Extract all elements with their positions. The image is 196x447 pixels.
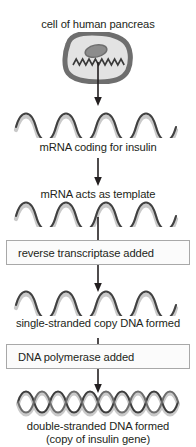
arrow-copy-dna-to-polymerase — [91, 334, 105, 344]
insulin-gene-cloning-diagram: cell of human pancreas — [0, 0, 196, 447]
label-mrna-coding: mRNA coding for insulin — [0, 140, 196, 154]
arrow-cell-to-mrna — [91, 62, 105, 106]
label-single-stranded-copy-dna: single-stranded copy DNA formed — [0, 316, 196, 330]
process-box-reverse-transcriptase-label: reverse transcriptase added — [7, 247, 154, 259]
process-box-reverse-transcriptase[interactable]: reverse transcriptase added — [6, 240, 190, 265]
single-strand-helix-copy-dna — [0, 288, 196, 316]
label-double-stranded-dna-sublabel: (copy of insulin gene) — [0, 432, 196, 446]
process-box-dna-polymerase[interactable]: DNA polymerase added — [6, 344, 190, 369]
diagram-title: cell of human pancreas — [0, 17, 196, 31]
process-box-dna-polymerase-label: DNA polymerase added — [7, 351, 134, 363]
single-strand-helix-mrna-coding — [0, 110, 196, 138]
arrow-mrna-to-template — [91, 158, 105, 186]
label-double-stranded-dna: double-stranded DNA formed — [0, 419, 196, 433]
double-strand-helix-dna — [0, 388, 196, 418]
